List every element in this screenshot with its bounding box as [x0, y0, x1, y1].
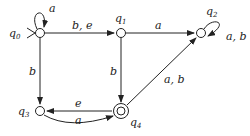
label-q1: q1 [115, 12, 127, 26]
state-q3 [36, 107, 45, 116]
label-q2: q2 [206, 5, 218, 19]
label-q4: q4 [130, 116, 142, 130]
state-q4-inner [117, 107, 125, 115]
initial-state-marker [27, 28, 35, 38]
label-q0: q0 [9, 27, 21, 41]
label-q3: q3 [18, 105, 30, 119]
transition-label-q2-q2: a, b [226, 30, 247, 43]
automaton-diagram: q0 q1 q2 q3 q4 a b, e a a, b b b a, b e … [0, 0, 250, 136]
state-q0 [36, 29, 45, 38]
transition-label-q3-q4: a [75, 114, 82, 127]
edge-q4-q2 [127, 38, 196, 105]
transition-label-q1-q4: b [110, 65, 117, 78]
transition-label-q0-q0: a [49, 2, 56, 15]
loop-q2 [204, 22, 219, 36]
loop-q0 [35, 13, 45, 29]
transition-label-q0-q3: b [29, 65, 36, 78]
transition-label-q0-q1: b, e [72, 19, 93, 32]
transition-label-q1-q2: a [155, 19, 162, 32]
transition-label-q4-q2: a, b [164, 73, 185, 86]
transition-label-q4-q3: e [75, 97, 82, 110]
state-q2 [197, 29, 206, 38]
state-q1 [117, 29, 126, 38]
